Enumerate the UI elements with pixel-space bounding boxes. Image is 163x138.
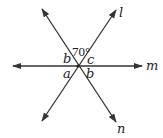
intersection-point — [76, 64, 79, 67]
line-m-label: m — [146, 58, 158, 73]
line-n-label: n — [117, 121, 125, 136]
angle-a-lower-left-label: a — [63, 66, 71, 81]
intersecting-lines-diagram: l m n 70° b c a b — [0, 0, 163, 138]
line-l-label: l — [119, 5, 123, 20]
angle-b-upper-left-label: b — [63, 51, 71, 66]
angle-c-upper-right-label: c — [87, 52, 95, 67]
angle-b-lower-right-label: b — [86, 66, 94, 81]
